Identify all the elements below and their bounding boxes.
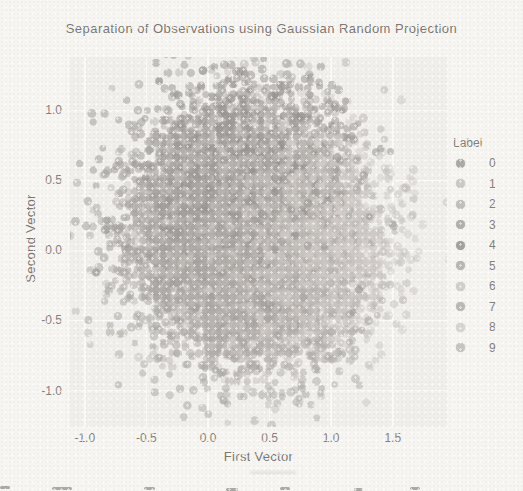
x-tick-label: 0.5 <box>248 431 292 445</box>
legend-item: 0 <box>450 153 520 174</box>
legend-item: 1 <box>450 174 520 195</box>
legend-marker-icon <box>456 343 465 352</box>
legend-entry-label: 5 <box>489 259 496 273</box>
scatter-points-canvas <box>70 57 447 427</box>
legend-entry-label: 0 <box>489 156 496 170</box>
legend-marker-icon <box>456 220 465 229</box>
x-tick-label: -1.0 <box>63 431 107 445</box>
legend-entry-label: 6 <box>489 279 496 293</box>
y-tick-label: 1.0 <box>18 103 62 117</box>
legend-marker-icon <box>456 200 465 209</box>
legend-marker-icon <box>456 323 465 332</box>
legend: Label 0 1 2 3 4 5 6 7 <box>450 133 520 358</box>
y-axis-label: Second Vector <box>23 184 38 294</box>
legend-marker-icon <box>456 302 465 311</box>
legend-item: 7 <box>450 297 520 318</box>
legend-item: 9 <box>450 338 520 359</box>
x-axis-label: First Vector <box>70 449 447 464</box>
legend-item: 3 <box>450 215 520 236</box>
legend-entry-label: 8 <box>489 320 496 334</box>
x-tick-label: 1.5 <box>371 431 415 445</box>
legend-item: 4 <box>450 235 520 256</box>
plot-area <box>70 57 447 427</box>
chart-title: Separation of Observations using Gaussia… <box>0 21 523 36</box>
x-tick-label: 1.0 <box>309 431 353 445</box>
legend-entry-label: 3 <box>489 218 496 232</box>
legend-marker-icon <box>456 261 465 270</box>
legend-entry-label: 4 <box>489 238 496 252</box>
legend-title: Label <box>450 133 520 153</box>
legend-marker-icon <box>456 241 465 250</box>
legend-marker-icon <box>456 159 465 168</box>
x-tick-label: -0.5 <box>124 431 168 445</box>
x-tick-label: 0.0 <box>186 431 230 445</box>
y-tick-label: -1.0 <box>18 384 62 398</box>
legend-item: 8 <box>450 317 520 338</box>
legend-marker-icon <box>456 179 465 188</box>
legend-item: 5 <box>450 256 520 277</box>
legend-entry-label: 7 <box>489 300 496 314</box>
y-tick-label: -0.5 <box>18 313 62 327</box>
legend-marker-icon <box>456 282 465 291</box>
figure-page: Separation of Observations using Gaussia… <box>0 0 523 491</box>
legend-item: 2 <box>450 194 520 215</box>
legend-entry-label: 2 <box>489 197 496 211</box>
legend-entry-label: 9 <box>489 341 496 355</box>
legend-item: 6 <box>450 276 520 297</box>
legend-entry-label: 1 <box>489 177 496 191</box>
